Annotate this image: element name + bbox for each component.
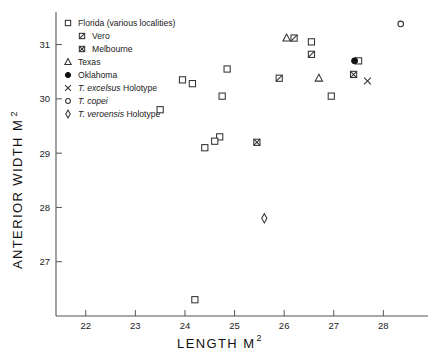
marker-open-square — [202, 145, 208, 151]
y-tick-label: 31 — [39, 39, 50, 50]
legend-label-italic: T. copei — [78, 96, 109, 106]
x-axis-ticks: 22232425262728 — [80, 310, 388, 331]
series-oklahoma — [352, 58, 358, 64]
marker-open-square — [328, 93, 334, 99]
open-square-glyph — [189, 81, 195, 87]
x-axis-title-superscript: 2 — [256, 333, 261, 343]
legend-label: Texas — [78, 57, 100, 67]
open-diamond-glyph — [262, 214, 267, 223]
legend-label: T. copei — [78, 96, 109, 106]
open-triangle-glyph — [283, 34, 290, 41]
series-t-excelsus-holotype — [364, 78, 371, 85]
legend-label-plain: Holotype — [124, 109, 161, 119]
open-square-glyph — [65, 20, 70, 25]
marker-square-crossed — [254, 139, 260, 145]
legend-label: Florida (various localities) — [78, 18, 176, 28]
marker-open-diamond — [66, 110, 70, 118]
open-square-glyph — [308, 39, 314, 45]
open-square-glyph — [212, 138, 218, 144]
marker-open-circle — [398, 21, 404, 27]
series-melbourne — [254, 71, 357, 145]
legend-label: Melbourne — [92, 44, 133, 54]
open-square-glyph — [157, 107, 163, 113]
x-tick-label: 24 — [180, 320, 191, 331]
marker-square-crossed — [79, 46, 84, 51]
marker-open-square — [157, 107, 163, 113]
open-square-glyph — [219, 93, 225, 99]
legend-label: T. excelsus Holotype — [78, 83, 157, 93]
open-triangle-glyph — [315, 74, 322, 81]
marker-open-triangle — [283, 34, 290, 41]
open-circle-glyph — [398, 21, 404, 27]
open-square-glyph — [202, 145, 208, 151]
marker-filled-circle — [65, 72, 70, 77]
axes-group — [56, 12, 428, 316]
open-square-glyph — [192, 297, 198, 303]
legend-label: T. veroensis Holotype — [78, 109, 161, 119]
marker-open-square — [192, 297, 198, 303]
filled-circle-glyph — [352, 58, 358, 64]
marker-open-square — [224, 66, 230, 72]
legend-label-italic: T. excelsus — [78, 83, 121, 93]
x-tick-label: 23 — [130, 320, 141, 331]
marker-square-crossed — [351, 71, 357, 77]
open-triangle-glyph — [65, 59, 71, 65]
legend-label: Vero — [92, 31, 110, 41]
y-axis-title-text: ANTERIOR WIDTH M — [10, 119, 25, 269]
data-markers-group — [157, 21, 403, 303]
marker-open-square — [179, 77, 185, 83]
marker-open-triangle — [65, 59, 71, 65]
marker-square-slash — [308, 51, 314, 57]
y-axis-title: ANTERIOR WIDTH M 2 — [9, 111, 25, 269]
marker-cross-x — [364, 78, 371, 85]
marker-square-slash — [276, 75, 282, 81]
y-tick-label: 28 — [39, 202, 50, 213]
x-tick-label: 22 — [80, 320, 91, 331]
open-square-glyph — [224, 66, 230, 72]
series-t-veroensis-holotype — [262, 214, 267, 223]
scatter-plot-figure: 22232425262728 2728293031 LENGTH M 2 ANT… — [0, 0, 435, 364]
x-axis-title: LENGTH M 2 — [177, 333, 261, 351]
x-tick-label: 26 — [279, 320, 290, 331]
marker-open-square — [65, 20, 70, 25]
y-tick-label: 30 — [39, 93, 50, 104]
marker-open-square — [219, 93, 225, 99]
marker-open-diamond — [262, 214, 267, 223]
legend-label-plain: Holotype — [121, 83, 158, 93]
marker-open-square — [308, 39, 314, 45]
series-florida-various-localities — [157, 39, 362, 303]
legend-label: Oklahoma — [78, 70, 117, 80]
x-tick-label: 28 — [378, 320, 389, 331]
x-tick-label: 27 — [328, 320, 339, 331]
y-tick-label: 29 — [39, 148, 50, 159]
marker-square-slash — [291, 35, 297, 41]
marker-filled-circle — [352, 58, 358, 64]
filled-circle-glyph — [65, 72, 70, 77]
y-axis-ticks: 2728293031 — [39, 39, 62, 267]
x-axis-title-text: LENGTH M — [177, 336, 255, 351]
y-axis-title-superscript: 2 — [9, 111, 19, 116]
open-square-glyph — [328, 93, 334, 99]
marker-open-square — [189, 81, 195, 87]
legend-label-italic: T. veroensis — [78, 109, 125, 119]
marker-square-slash — [79, 33, 84, 38]
marker-open-triangle — [315, 74, 322, 81]
series-texas — [283, 34, 323, 81]
open-diamond-glyph — [66, 110, 70, 118]
open-square-glyph — [179, 77, 185, 83]
series-t-copei — [398, 21, 404, 27]
plot-canvas: 22232425262728 2728293031 LENGTH M 2 ANT… — [0, 0, 435, 364]
y-tick-label: 27 — [39, 256, 50, 267]
legend: Florida (various localities)VeroMelbourn… — [65, 18, 176, 119]
marker-open-square — [212, 138, 218, 144]
marker-cross-x — [65, 85, 71, 91]
marker-open-circle — [66, 99, 71, 104]
open-circle-glyph — [66, 99, 71, 104]
x-tick-label: 25 — [229, 320, 240, 331]
